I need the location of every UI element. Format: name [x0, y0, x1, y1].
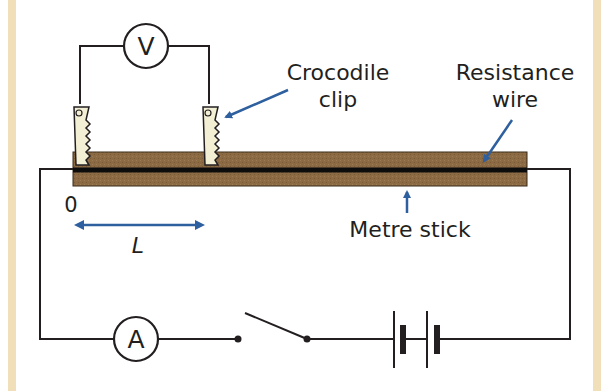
length-label: L [132, 233, 144, 258]
circuit-diagram: V A [0, 0, 603, 391]
crocodile-clip-arrow [226, 90, 288, 117]
switch-icon [235, 313, 311, 343]
crocodile-clip-right [203, 107, 219, 165]
length-arrow [74, 220, 205, 230]
crocodile-clip-label-line1: Crocodile [287, 60, 390, 85]
ammeter-icon: A [114, 317, 158, 361]
ammeter-label: A [127, 325, 144, 354]
crocodile-clip-left [74, 107, 90, 165]
resistance-wire-label-line1: Resistance [456, 60, 575, 85]
voltmeter-label: V [137, 32, 154, 61]
resistance-wire-label-line2: wire [492, 87, 538, 112]
main-circuit-wire [40, 169, 570, 339]
voltmeter-icon: V [124, 24, 168, 68]
crocodile-clip-label-line2: clip [319, 87, 357, 112]
metre-stick-label: Metre stick [349, 217, 471, 242]
zero-mark-label: 0 [64, 193, 77, 217]
